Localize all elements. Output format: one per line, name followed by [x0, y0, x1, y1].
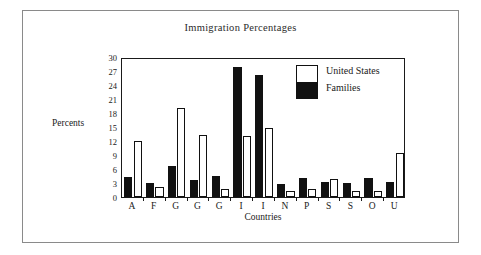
- x-tick-mark: [230, 198, 231, 201]
- bar-families: [212, 176, 220, 197]
- bar-united-states: [221, 189, 229, 197]
- bar-families: [146, 183, 154, 197]
- x-tick-mark: [252, 198, 253, 201]
- bar-families: [343, 183, 351, 197]
- x-tick-mark: [165, 198, 166, 201]
- legend-label-united-states: United States: [326, 65, 380, 76]
- y-tick-label: 15: [95, 124, 117, 133]
- y-tick-label: 0: [95, 194, 117, 203]
- bar-united-states: [330, 179, 338, 197]
- legend-swatch-families: [297, 82, 317, 98]
- y-tick-label: 24: [95, 82, 117, 91]
- x-tick-mark: [318, 198, 319, 201]
- bar-united-states: [243, 136, 251, 197]
- bar-united-states: [134, 141, 142, 197]
- bar-united-states: [374, 191, 382, 197]
- bar-families: [168, 166, 176, 197]
- bar-united-states: [286, 191, 294, 197]
- x-tick-label: A: [128, 201, 135, 211]
- y-tick-label: 30: [95, 54, 117, 63]
- y-tick-label: 3: [95, 180, 117, 189]
- x-tick-label: U: [391, 201, 398, 211]
- x-tick-label: O: [369, 201, 376, 211]
- bar-united-states: [155, 187, 163, 197]
- bar-families: [255, 75, 263, 197]
- y-axis: 036912151821242730: [95, 52, 122, 204]
- bar-families: [299, 178, 307, 197]
- x-tick-label: P: [304, 201, 309, 211]
- x-tick-label: I: [261, 201, 264, 211]
- bar-families: [190, 180, 198, 197]
- x-tick-label: G: [194, 201, 201, 211]
- x-tick-label: F: [151, 201, 156, 211]
- chart-title: Immigration Percentages: [0, 22, 481, 33]
- x-tick-label: G: [172, 201, 179, 211]
- y-tick-label: 6: [95, 166, 117, 175]
- x-tick-mark: [296, 198, 297, 201]
- y-tick-label: 9: [95, 152, 117, 161]
- bar-families: [364, 178, 372, 197]
- y-axis-title: Percents: [52, 118, 84, 128]
- x-tick-mark: [361, 198, 362, 201]
- x-tick-mark: [383, 198, 384, 201]
- x-tick-label: S: [348, 201, 353, 211]
- bar-united-states: [352, 191, 360, 197]
- x-axis-title: Countries: [121, 212, 405, 222]
- x-tick-mark: [339, 198, 340, 201]
- y-tick-label: 21: [95, 96, 117, 105]
- bar-families: [277, 184, 285, 197]
- x-tick-label: I: [240, 201, 243, 211]
- x-tick-mark: [274, 198, 275, 201]
- bar-families: [124, 177, 132, 197]
- y-tick-label: 12: [95, 138, 117, 147]
- y-tick-label: 27: [95, 68, 117, 77]
- x-tick-mark: [187, 198, 188, 201]
- bar-united-states: [199, 135, 207, 197]
- legend: United States Families: [296, 64, 401, 102]
- bar-families: [386, 182, 394, 197]
- x-tick-label: G: [216, 201, 223, 211]
- bar-united-states: [396, 153, 404, 197]
- bar-united-states: [308, 189, 316, 197]
- y-tick-label: 18: [95, 110, 117, 119]
- x-tick-mark: [208, 198, 209, 201]
- x-tick-mark: [143, 198, 144, 201]
- bar-families: [233, 67, 241, 197]
- legend-swatch-united-states: [296, 65, 318, 99]
- bar-united-states: [177, 108, 185, 197]
- x-tick-label: S: [326, 201, 331, 211]
- bar-families: [321, 182, 329, 197]
- legend-label-families: Families: [326, 82, 360, 93]
- x-tick-label: N: [281, 201, 288, 211]
- bar-united-states: [265, 128, 273, 197]
